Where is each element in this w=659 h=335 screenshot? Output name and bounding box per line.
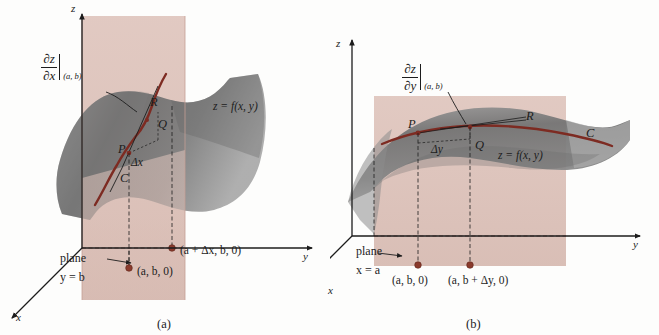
curve-label-c: C bbox=[586, 127, 594, 140]
point-label-r: R bbox=[526, 110, 534, 123]
point-label-p: P bbox=[118, 143, 126, 156]
curve-label-c: C bbox=[120, 172, 128, 185]
point-label-q: Q bbox=[158, 118, 167, 131]
plane-label-line2: x = a bbox=[356, 264, 380, 276]
base-point-a-b-plus-dy-0-dot bbox=[467, 262, 474, 269]
panel-b-caption: (b) bbox=[466, 318, 481, 331]
partial-dz-dy-label: ∂z ∂y (a, b) bbox=[402, 62, 443, 92]
plane-label-line1: plane bbox=[60, 252, 86, 264]
increment-label-dy: Δy bbox=[431, 144, 443, 156]
surface-equation-label: z = f(x, y) bbox=[213, 101, 258, 113]
x-axis-label: x bbox=[328, 285, 333, 296]
y-axis-label: y bbox=[303, 251, 308, 262]
partial-denominator: ∂y bbox=[402, 79, 418, 93]
partial-subscript: (a, b) bbox=[424, 81, 442, 92]
increment-label-dx: Δx bbox=[131, 157, 143, 169]
x-axis-label: x bbox=[16, 312, 21, 323]
base-point-label-0: (a, b, 0) bbox=[392, 275, 428, 287]
z-axis-label: z bbox=[336, 38, 340, 49]
x-axis bbox=[330, 236, 352, 298]
base-point-label-1: (a, b + Δy, 0) bbox=[448, 275, 508, 287]
panel-a-caption: (a) bbox=[157, 318, 171, 331]
surface-equation-label: z = f(x, y) bbox=[498, 150, 543, 162]
evaluation-bar bbox=[59, 54, 60, 80]
base-point-label-1: (a + Δx, b, 0) bbox=[180, 245, 241, 257]
y-axis-label: y bbox=[633, 239, 638, 250]
panel-a: z y x ∂z ∂x (a, b) z = f(x, y) C P Q R Δ… bbox=[0, 0, 330, 335]
plane-label-line1: plane bbox=[356, 245, 382, 257]
partial-numerator: ∂z bbox=[402, 62, 417, 76]
point-label-q: Q bbox=[475, 139, 484, 152]
partial-denominator: ∂x bbox=[41, 69, 57, 83]
figure-partial-derivatives: z y x ∂z ∂x (a, b) z = f(x, y) C P Q R Δ… bbox=[0, 0, 659, 335]
partial-numerator: ∂z bbox=[41, 52, 56, 66]
base-point-a-b-0-dot bbox=[126, 265, 133, 272]
point-label-r: R bbox=[150, 96, 158, 109]
point-r-dot bbox=[145, 118, 149, 122]
evaluation-bar bbox=[420, 64, 421, 90]
plane-label-line2: y = b bbox=[60, 271, 85, 283]
panel-b: z y x ∂z ∂y (a, b) z = f(x, y) C P Q R Δ… bbox=[330, 0, 659, 335]
partial-dz-dx-label: ∂z ∂x (a, b) bbox=[41, 52, 82, 82]
point-label-p: P bbox=[408, 118, 416, 131]
base-point-label-0: (a, b, 0) bbox=[137, 266, 173, 278]
partial-subscript: (a, b) bbox=[63, 71, 81, 82]
z-axis-label: z bbox=[71, 3, 75, 14]
base-point-a-b-0-dot bbox=[415, 262, 422, 269]
